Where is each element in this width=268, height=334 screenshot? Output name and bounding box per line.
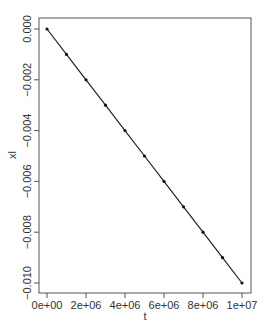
data-point — [65, 53, 68, 56]
y-tick-label: 0.000 — [21, 15, 33, 43]
data-point — [143, 154, 146, 157]
data-point — [221, 256, 224, 259]
x-tick-label: 1e+07 — [227, 299, 258, 311]
y-tick-label: −0.010 — [21, 266, 33, 300]
data-point — [45, 27, 48, 30]
y-tick-label: −0.002 — [21, 63, 33, 97]
x-axis: 0e+002e+064e+066e+068e+061e+07 — [32, 293, 258, 311]
y-tick-label: −0.006 — [21, 164, 33, 198]
y-tick-label: −0.004 — [21, 114, 33, 148]
x-axis-label: t — [143, 310, 146, 322]
x-tick-label: 4e+06 — [110, 299, 141, 311]
data-point — [240, 281, 243, 284]
data-point — [104, 104, 107, 107]
x-tick-label: 6e+06 — [149, 299, 180, 311]
x-tick-label: 0e+00 — [32, 299, 63, 311]
x-tick-label: 8e+06 — [188, 299, 219, 311]
y-axis: 0.000−0.002−0.004−0.006−0.008−0.010 — [21, 15, 39, 300]
data-point — [123, 129, 126, 132]
data-point — [201, 231, 204, 234]
y-axis-label: xl — [6, 151, 18, 159]
data-point — [84, 78, 87, 81]
y-tick-label: −0.008 — [21, 215, 33, 249]
data-point — [182, 205, 185, 208]
data-point — [162, 180, 165, 183]
line-chart: 0e+002e+064e+066e+068e+061e+07 0.000−0.0… — [0, 0, 268, 334]
x-tick-label: 2e+06 — [71, 299, 102, 311]
